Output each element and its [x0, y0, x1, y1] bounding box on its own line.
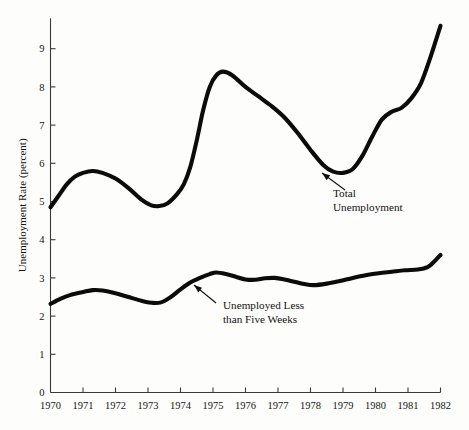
annotation-label-total-unemployment: Unemployment — [333, 201, 403, 213]
y-tick-label: 1 — [39, 349, 44, 360]
y-axis-title: Unemployment Rate (percent) — [16, 138, 29, 272]
y-tick-label: 8 — [39, 82, 44, 93]
y-tick-label: 4 — [39, 234, 45, 245]
x-tick-label: 1970 — [40, 400, 61, 411]
annotation-label-total-unemployment: Total — [333, 187, 356, 199]
x-tick-label: 1980 — [365, 400, 386, 411]
x-tick-label: 1974 — [170, 400, 192, 411]
unemployment-line-chart: 0123456789 19701971197219731974197519761… — [0, 0, 469, 430]
y-tick-label: 9 — [39, 43, 44, 54]
annotation-label-unemployed-less-than-five-weeks: than Five Weeks — [223, 313, 297, 325]
chart-container: 0123456789 19701971197219731974197519761… — [0, 0, 469, 430]
x-tick-label: 1975 — [203, 400, 224, 411]
y-tick-label: 3 — [39, 273, 44, 284]
x-tick-label: 1979 — [333, 400, 354, 411]
x-tick-label: 1977 — [268, 400, 289, 411]
x-tick-label: 1978 — [300, 400, 321, 411]
annotation-arrow-head — [322, 173, 330, 180]
y-axis: 0123456789 — [39, 18, 55, 398]
series-lines — [51, 26, 441, 304]
x-tick-label: 1971 — [73, 400, 94, 411]
y-tick-label: 0 — [39, 387, 44, 398]
x-tick-label: 1973 — [138, 400, 159, 411]
y-tick-label: 7 — [39, 120, 44, 131]
annotations: TotalUnemploymentUnemployed Lessthan Fiv… — [194, 173, 403, 325]
x-axis: 1970197119721973197419751976197719781979… — [40, 388, 451, 411]
x-tick-label: 1972 — [105, 400, 126, 411]
x-tick-label: 1981 — [398, 400, 419, 411]
y-tick-label: 6 — [39, 158, 44, 169]
series-line-total-unemployment — [51, 26, 441, 207]
y-tick-label: 5 — [39, 196, 44, 207]
x-tick-label: 1982 — [430, 400, 451, 411]
y-tick-label: 2 — [39, 311, 44, 322]
series-line-unemployed-less-than-five-weeks — [51, 255, 441, 304]
annotation-label-unemployed-less-than-five-weeks: Unemployed Less — [223, 299, 304, 311]
x-tick-label: 1976 — [235, 400, 256, 411]
